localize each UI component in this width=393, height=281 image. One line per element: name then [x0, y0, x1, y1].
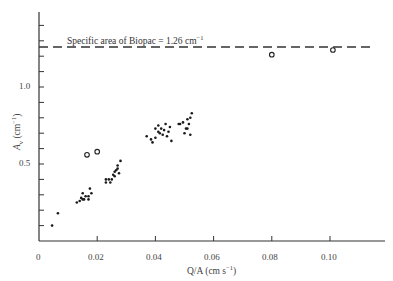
filled-dot-point: [145, 135, 148, 138]
y-axis-label-symbol: A: [12, 144, 22, 150]
y-axis-label-sub: v: [17, 141, 24, 144]
filled-dot-point: [154, 127, 157, 130]
y-tick-label-1.0: 1.0: [19, 81, 30, 91]
x-tick-label-0.10: 0.10: [321, 252, 337, 262]
filled-dot-point: [169, 126, 172, 129]
filled-dot-point: [160, 127, 163, 130]
filled-dot-point: [83, 198, 86, 201]
open-circle-point: [95, 149, 100, 154]
filled-dot-point: [105, 181, 108, 184]
y-axis-ticks: [39, 25, 44, 225]
x-tick-label-0.04: 0.04: [146, 252, 162, 262]
y-axis-label-close: ): [12, 114, 22, 117]
open-circle-point: [331, 48, 336, 53]
filled-dot-point: [151, 141, 154, 144]
y-axis-label-unit: (cm: [12, 124, 22, 141]
filled-dot-point: [113, 175, 116, 178]
x-axis-label: Q/A (cm s−1): [187, 264, 236, 276]
x-tick-label-0.08: 0.08: [262, 252, 278, 262]
filled-dot-point: [51, 224, 54, 227]
annotation-text: Specific area of Biopac = 1.26 cm: [67, 36, 197, 46]
filled-dot-point: [90, 192, 93, 195]
filled-dot-point: [108, 178, 111, 181]
data-points: [51, 48, 335, 227]
filled-dot-point: [78, 200, 81, 203]
filled-dot-point: [76, 201, 79, 204]
filled-dot-point: [183, 132, 186, 135]
filled-dot-point: [166, 135, 169, 138]
filled-dot-point: [116, 167, 119, 170]
filled-dot-point: [167, 130, 170, 133]
filled-dot-point: [191, 112, 194, 115]
filled-dot-point: [186, 127, 189, 130]
filled-dot-point: [87, 195, 90, 198]
filled-dot-point: [150, 138, 153, 141]
filled-dot-point: [111, 178, 114, 181]
x-axis-label-close: ): [233, 266, 236, 276]
filled-dot-point: [163, 129, 166, 132]
filled-dot-point: [186, 118, 189, 121]
filled-dot-point: [179, 123, 182, 126]
open-circle-point: [270, 52, 275, 57]
biopac-annotation: Specific area of Biopac = 1.26 cm−1: [67, 34, 204, 46]
x-axis-label-sup: −1: [226, 264, 233, 271]
x-axis-label-main: Q/A (cm s: [187, 266, 226, 276]
filled-dot-point: [119, 160, 122, 163]
filled-dot-point: [189, 117, 192, 120]
filled-dot-point: [109, 181, 112, 184]
filled-dot-point: [81, 192, 84, 195]
y-axis-label-sup: −1: [10, 117, 17, 124]
filled-dot-point: [87, 198, 90, 201]
filled-dot-point: [161, 133, 164, 136]
x-tick-label-0: 0: [36, 252, 41, 262]
filled-dot-point: [116, 164, 119, 167]
open-circle-point: [85, 153, 90, 158]
filled-dot-point: [182, 121, 185, 124]
filled-dot-point: [189, 133, 192, 136]
filled-dot-point: [84, 195, 87, 198]
y-axis-label: Av (cm−1): [10, 114, 24, 150]
filled-dot-point: [57, 212, 60, 215]
x-tick-label-0.06: 0.06: [204, 252, 220, 262]
filled-dot-point: [159, 132, 162, 135]
annotation-superscript: −1: [197, 34, 204, 41]
y-tick-label-0.5: 0.5: [19, 158, 30, 168]
filled-dot-point: [157, 124, 160, 127]
filled-dot-point: [118, 172, 121, 175]
filled-dot-point: [154, 137, 157, 140]
x-tick-label-0.02: 0.02: [88, 252, 104, 262]
filled-dot-point: [170, 140, 173, 143]
filled-dot-point: [89, 187, 92, 190]
filled-dot-point: [105, 178, 108, 181]
filled-dot-point: [188, 123, 191, 126]
filled-dot-point: [164, 123, 167, 126]
x-axis-ticks: [97, 236, 330, 241]
